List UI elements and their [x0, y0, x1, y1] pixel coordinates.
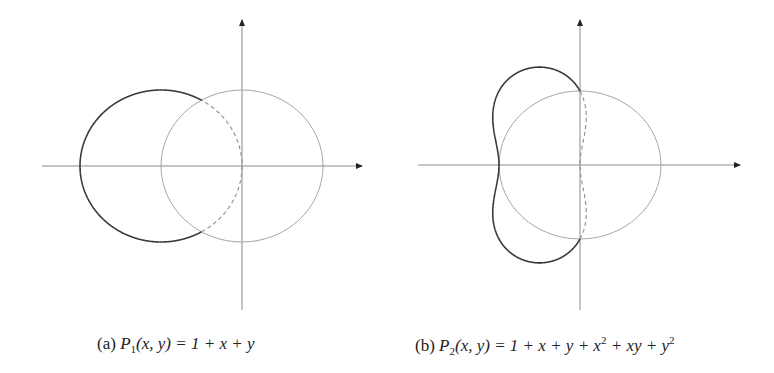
panel-b-plot [418, 20, 740, 310]
poly-rhs-part: + xy + y [606, 336, 669, 355]
poly-args: (x, y) [136, 334, 171, 353]
poly-name: P [439, 336, 449, 355]
exponent: 2 [669, 334, 675, 346]
caption-label: (b) [415, 336, 435, 355]
poly-rhs: = 1 + x + y [175, 334, 254, 353]
poly-rhs-part: = 1 + x + y + x [494, 336, 601, 355]
caption-label: (a) [97, 334, 116, 353]
caption-a: (a) P1(x, y) = 1 + x + y [97, 334, 254, 355]
poly-name: P [120, 334, 130, 353]
poly-args: (x, y) [455, 336, 490, 355]
caption-b: (b) P2(x, y) = 1 + x + y + x2 + xy + y2 [415, 334, 675, 357]
panel-a-plot [42, 20, 362, 310]
figure-canvas [0, 0, 774, 373]
